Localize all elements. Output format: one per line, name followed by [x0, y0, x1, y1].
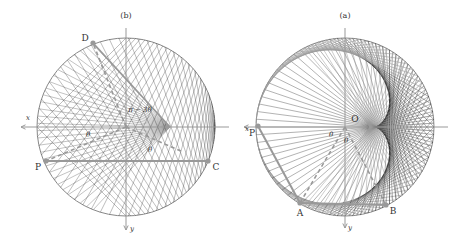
radius-oa — [300, 127, 345, 203]
envelope-chord-b — [173, 52, 204, 171]
chord-a — [261, 97, 432, 143]
label-p-b: P — [35, 162, 41, 172]
chord-a — [257, 112, 433, 135]
ray-b — [49, 82, 170, 127]
point-c-b — [205, 158, 210, 163]
panel-b-nephroid — [21, 28, 229, 230]
label-theta2-b: θ — [148, 146, 153, 154]
chord-a — [279, 187, 337, 216]
label-a-a: A — [296, 208, 304, 218]
envelope-chord-b — [37, 127, 126, 216]
label-d-b: D — [81, 33, 88, 43]
point-d-b — [90, 40, 95, 45]
label-y-a: y — [347, 224, 353, 232]
envelope-chord-b — [39, 39, 135, 146]
envelope-chord-b — [45, 40, 145, 164]
caption-a: (a) — [339, 11, 350, 20]
label-pi-3theta-b: π − 3θ — [127, 106, 152, 114]
chord-a — [277, 39, 330, 69]
envelope-chord-b — [37, 38, 126, 127]
label-x-b: x — [26, 114, 30, 122]
chord-a — [326, 165, 426, 214]
ray-a — [365, 40, 370, 127]
diagram-svg: PABOθθxy(a)PCDθθπ − 3θxy(b) — [0, 0, 464, 245]
figure-canvas: PABOθθxy(a)PCDθθπ − 3θxy(b) — [0, 0, 464, 245]
point-b-a — [383, 202, 388, 207]
chord-a — [326, 40, 426, 89]
envelope-chord-b — [195, 97, 210, 184]
label-theta1-a: θ — [329, 131, 334, 139]
label-p-a: P — [249, 128, 255, 138]
envelope-chord-b — [128, 65, 189, 216]
label-b-a: B — [390, 206, 397, 216]
caption-b: (b) — [120, 11, 131, 20]
ray-b — [93, 127, 170, 210]
point-a-a — [297, 200, 302, 205]
chord-a — [261, 112, 432, 158]
panel-a-cardioid — [244, 28, 448, 228]
label-c-b: C — [213, 162, 220, 172]
point-p-b — [43, 158, 48, 163]
envelope-chord-b — [195, 70, 210, 157]
label-y-b: y — [129, 225, 135, 233]
point-p-a — [255, 123, 260, 128]
label-origin-a: O — [351, 114, 358, 124]
envelope-chord-b — [138, 68, 193, 215]
label-x-a: x — [245, 125, 249, 133]
ray-a — [365, 127, 370, 214]
